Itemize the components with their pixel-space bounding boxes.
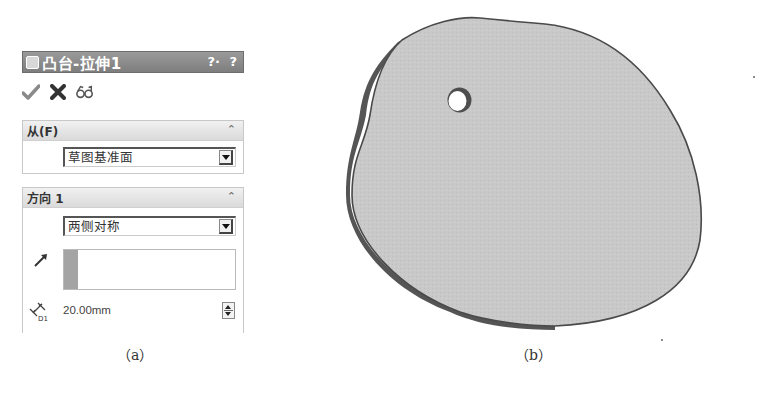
x-icon [50, 84, 66, 100]
end-condition-value: 两侧对称 [68, 219, 120, 234]
end-condition-select[interactable]: 两侧对称 [63, 216, 236, 236]
from-group: 从(F) ⌃ 草图基准面 [22, 120, 244, 174]
ok-button[interactable] [22, 83, 40, 101]
dropdown-arrow-icon[interactable] [219, 219, 233, 234]
caption-b: （b） [515, 344, 552, 364]
dropdown-arrow-icon[interactable] [219, 150, 233, 165]
caption-a: （a） [117, 344, 153, 364]
from-start-condition-select[interactable]: 草图基准面 [63, 147, 236, 167]
from-group-header[interactable]: 从(F) ⌃ [23, 121, 243, 141]
depth-row: D1 20.00mm [23, 299, 243, 323]
svg-text:D1: D1 [38, 315, 48, 323]
spin-up-icon[interactable] [225, 305, 231, 309]
feature-title-bar: 凸台-拉伸1 ?· ? [22, 51, 244, 73]
collapse-icon[interactable]: ⌃ [227, 123, 236, 136]
collapse-icon[interactable]: ⌃ [227, 190, 236, 203]
depth-spinner[interactable] [222, 302, 235, 319]
feature-title: 凸台-拉伸1 [42, 52, 122, 73]
selection-color-swatch [64, 250, 78, 289]
detailed-preview-button[interactable] [76, 83, 94, 101]
direction-arrow-icon [33, 252, 49, 272]
from-selected-value: 草图基准面 [68, 150, 133, 165]
scan-speck [661, 339, 663, 341]
depth-dimension-icon: D1 [26, 299, 52, 327]
extruded-plate-model [340, 0, 770, 340]
direction1-group: 方向 1 ⌃ 两侧对称 D1 20.00mm [22, 187, 244, 333]
model-view[interactable] [340, 0, 770, 340]
help-icon[interactable]: ? [229, 54, 237, 69]
extrude-property-manager: 凸台-拉伸1 ?· ? 从(F) ⌃ [22, 51, 244, 333]
feature-icon [26, 56, 39, 69]
depth-value-input[interactable]: 20.00mm [63, 304, 111, 316]
whats-new-help-icon[interactable]: ?· [207, 54, 219, 69]
direction1-group-title: 方向 1 [27, 189, 64, 206]
help-icons: ?· ? [202, 54, 237, 69]
spin-down-icon[interactable] [225, 312, 231, 316]
checkmark-icon [22, 84, 40, 100]
cancel-button[interactable] [49, 83, 67, 101]
action-bar [22, 81, 94, 103]
scan-speck [753, 76, 755, 78]
detailed-preview-icon [76, 84, 94, 100]
from-group-title: 从(F) [27, 122, 58, 139]
plate-face [352, 18, 701, 326]
direction1-group-header[interactable]: 方向 1 ⌃ [23, 188, 243, 208]
direction-reference-field[interactable] [63, 249, 236, 290]
